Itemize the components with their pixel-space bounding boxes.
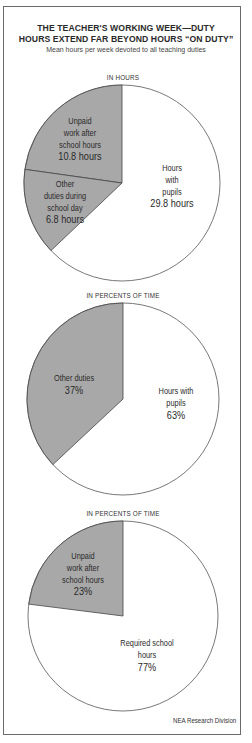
pie3-label-required: Required school hours 77% — [120, 638, 173, 674]
pie3-label-unpaid: Unpaid work after school hours 23% — [62, 551, 104, 599]
pie1-label-pupils: Hours with pupils 29.8 hours — [150, 163, 193, 211]
pie-charts-graphic — [0, 0, 252, 743]
pie1-label-unpaid: Unpaid work after school hours 10.8 hour… — [58, 116, 101, 164]
source-credit: NEA Research Division — [173, 717, 236, 724]
pie1-label-other: Other duties during school day 6.8 hours — [44, 179, 86, 227]
pie3 — [28, 521, 218, 711]
pie2-label-pupils: Hours with pupils 63% — [159, 386, 194, 422]
pie2-label-other: Other duties 37% — [54, 373, 94, 397]
